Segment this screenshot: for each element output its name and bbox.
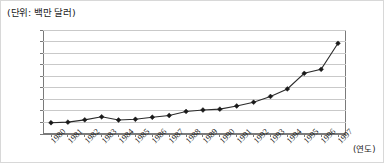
data-point-marker	[217, 107, 222, 112]
data-point-marker	[133, 117, 138, 122]
data-point-marker	[268, 94, 273, 99]
data-point-marker	[150, 115, 155, 120]
data-point-marker	[116, 118, 121, 123]
data-point-marker	[167, 113, 172, 118]
x-axis-title: (연도)	[353, 142, 376, 154]
plot-wrapper: 0200040006000800010000120001400016000180…	[43, 30, 346, 134]
data-point-marker	[49, 120, 54, 125]
series-layer	[43, 30, 346, 134]
series-line	[51, 43, 338, 122]
data-point-marker	[184, 109, 189, 114]
unit-label: (단위: 백만 달러)	[7, 5, 75, 19]
data-point-marker	[99, 114, 104, 119]
data-point-marker	[201, 108, 206, 113]
chart-figure: (단위: 백만 달러) 0200040006000800010000120001…	[0, 0, 384, 163]
series-markers	[49, 41, 341, 125]
data-point-marker	[251, 100, 256, 105]
data-point-marker	[65, 120, 70, 125]
data-point-marker	[234, 104, 239, 109]
data-point-marker	[82, 117, 87, 122]
